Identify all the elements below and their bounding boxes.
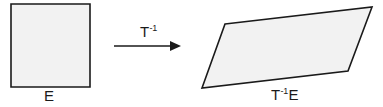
- transformation-figure: E T-1 T-1E: [0, 0, 383, 107]
- figure-canvas: [0, 0, 383, 107]
- image-shape-label: T-1E: [271, 87, 299, 102]
- transform-operator-superscript-text: -1: [149, 23, 157, 33]
- transform-arrow-head-icon: [170, 41, 181, 51]
- image-shape-label-base-text: E: [288, 86, 298, 103]
- transform-operator-label: T-1: [140, 24, 157, 39]
- source-shape-label-text: E: [44, 87, 54, 104]
- source-shape-label: E: [44, 88, 54, 103]
- source-square-shape: [11, 4, 90, 87]
- image-shape-label-prefix-text: T: [271, 86, 280, 103]
- image-parallelogram-shape: [202, 7, 372, 88]
- transform-operator-base-text: T: [140, 23, 149, 40]
